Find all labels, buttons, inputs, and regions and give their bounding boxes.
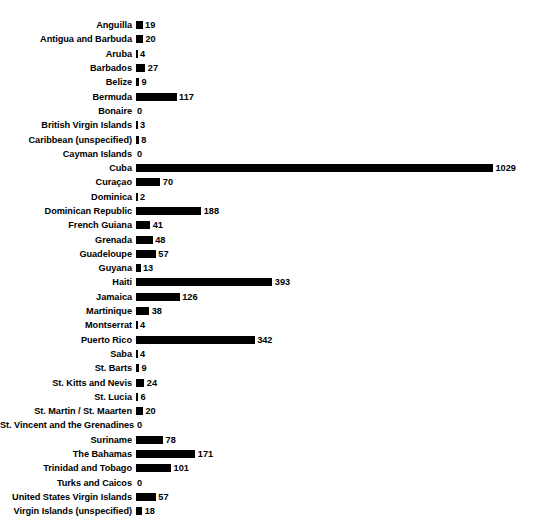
bar-row-label: Aruba xyxy=(0,49,136,59)
bar-row-label: Dominican Republic xyxy=(0,206,136,216)
bar-row-label: Suriname xyxy=(0,435,136,445)
bar xyxy=(136,207,201,215)
bar-row: Grenada48 xyxy=(0,232,546,246)
bar-value-label: 9 xyxy=(139,77,147,87)
bar-row: St. Martin / St. Maarten20 xyxy=(0,404,546,418)
bar-row: Turks and Caicos0 xyxy=(0,476,546,490)
bar-row: Anguilla19 xyxy=(0,18,546,32)
bar xyxy=(136,464,171,472)
bar-row: Saba4 xyxy=(0,347,546,361)
bar-row-label: St. Lucia xyxy=(0,392,136,402)
bar-row: Antigua and Barbuda20 xyxy=(0,32,546,46)
bar-row-label: Cuba xyxy=(0,163,136,173)
bar xyxy=(136,21,143,29)
bar-track: 393 xyxy=(136,275,546,289)
bar-row-label: Haiti xyxy=(0,277,136,287)
bar-value-label: 70 xyxy=(160,177,173,187)
bar-track: 4 xyxy=(136,47,546,61)
bar-rows-container: Anguilla19Antigua and Barbuda20Aruba4Bar… xyxy=(0,18,546,518)
bar-row-label: Anguilla xyxy=(0,20,136,30)
bar-value-label: 9 xyxy=(139,363,147,373)
bar-row-label: St. Vincent and the Grenadines xyxy=(0,420,136,430)
bar-value-label: 57 xyxy=(156,249,169,259)
bar-value-label: 13 xyxy=(141,263,154,273)
bar-value-label: 1029 xyxy=(493,163,516,173)
bar-row: St. Lucia6 xyxy=(0,390,546,404)
bar-value-label: 2 xyxy=(138,192,146,202)
bar-track: 0 xyxy=(136,104,546,118)
bar-value-label: 20 xyxy=(143,406,156,416)
bar-row-label: Belize xyxy=(0,77,136,87)
bar-value-label: 48 xyxy=(153,235,166,245)
bar-value-label: 78 xyxy=(163,435,176,445)
bar xyxy=(136,293,180,301)
bar-value-label: 188 xyxy=(201,206,219,216)
bar-row: Haiti393 xyxy=(0,275,546,289)
bar-value-label: 24 xyxy=(144,378,157,388)
bar-track: 8 xyxy=(136,132,546,146)
bar xyxy=(136,436,163,444)
bar-row: Puerto Rico342 xyxy=(0,333,546,347)
bar xyxy=(136,178,160,186)
bar-value-label: 8 xyxy=(139,135,147,145)
bar xyxy=(136,278,272,286)
bar-row-label: Grenada xyxy=(0,235,136,245)
bar-track: 57 xyxy=(136,247,546,261)
bar-track: 24 xyxy=(136,375,546,389)
bar-row-label: Barbados xyxy=(0,63,136,73)
bar-track: 78 xyxy=(136,433,546,447)
bar-row: Curaçao70 xyxy=(0,175,546,189)
bar-row-label: Trinidad and Tobago xyxy=(0,463,136,473)
bar-value-label: 4 xyxy=(138,349,146,359)
bar-track: 41 xyxy=(136,218,546,232)
bar xyxy=(136,450,195,458)
bar-row: Martinique38 xyxy=(0,304,546,318)
bar xyxy=(136,64,145,72)
bar-track: 101 xyxy=(136,461,546,475)
bar xyxy=(136,93,177,101)
bar-row: Guyana13 xyxy=(0,261,546,275)
bar-value-label: 171 xyxy=(195,449,213,459)
bar-track: 0 xyxy=(136,418,546,432)
bar-track: 70 xyxy=(136,175,546,189)
bar-track: 18 xyxy=(136,504,546,518)
bar-row-label: Martinique xyxy=(0,306,136,316)
bar-row: Caribbean (unspecified)8 xyxy=(0,132,546,146)
bar-row: Barbados27 xyxy=(0,61,546,75)
bar-value-label: 393 xyxy=(272,277,290,287)
bar-row: Aruba4 xyxy=(0,47,546,61)
bar xyxy=(136,493,156,501)
bar-row-label: United States Virgin Islands xyxy=(0,492,136,502)
bar-track: 1029 xyxy=(136,161,546,175)
bar-row: Cuba1029 xyxy=(0,161,546,175)
bar-row-label: Saba xyxy=(0,349,136,359)
bar-row-label: Dominica xyxy=(0,192,136,202)
bar-value-label: 38 xyxy=(149,306,162,316)
bar-row: St. Kitts and Nevis24 xyxy=(0,375,546,389)
bar-row: Montserrat4 xyxy=(0,318,546,332)
bar xyxy=(136,250,156,258)
bar-value-label: 3 xyxy=(138,120,146,130)
bar-row: The Bahamas171 xyxy=(0,447,546,461)
bar-track: 171 xyxy=(136,447,546,461)
bar-row: Bermuda117 xyxy=(0,89,546,103)
bar-row: United States Virgin Islands57 xyxy=(0,490,546,504)
bar-row: St. Vincent and the Grenadines0 xyxy=(0,418,546,432)
bar-row-label: St. Kitts and Nevis xyxy=(0,378,136,388)
bar-track: 4 xyxy=(136,318,546,332)
bar-row-label: Antigua and Barbuda xyxy=(0,34,136,44)
bar-row-label: Virgin Islands (unspecified) xyxy=(0,506,136,516)
bar-track: 342 xyxy=(136,333,546,347)
bar-row-label: Curaçao xyxy=(0,177,136,187)
bar-track: 0 xyxy=(136,147,546,161)
bar-track: 0 xyxy=(136,476,546,490)
bar-row-label: Bermuda xyxy=(0,92,136,102)
bar-value-label: 4 xyxy=(138,49,146,59)
bar-value-label: 20 xyxy=(143,34,156,44)
bar-track: 57 xyxy=(136,490,546,504)
bar-value-label: 101 xyxy=(171,463,189,473)
bar xyxy=(136,221,150,229)
bar xyxy=(136,236,153,244)
bar-value-label: 18 xyxy=(142,506,155,516)
